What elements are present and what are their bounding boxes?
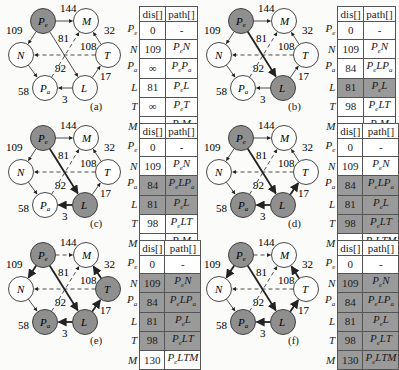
edge-weight: 144	[258, 236, 275, 248]
dis-cell: 0	[140, 22, 166, 40]
edge-weight: 17	[298, 304, 310, 316]
table-row: T∞PeT	[125, 97, 198, 116]
edge-weight: 32	[302, 24, 313, 36]
edge-weight: 144	[258, 119, 275, 131]
node-n: N	[207, 43, 232, 68]
table-row: Pe0-	[125, 22, 198, 40]
svg-text:T: T	[104, 166, 111, 178]
dis-cell: 98	[140, 214, 166, 233]
edge-weight: 17	[298, 187, 310, 199]
path-cell: PeLT	[363, 97, 395, 116]
row-label: N	[323, 274, 338, 293]
dis-cell: 109	[338, 274, 363, 293]
path-cell: PeLTM	[363, 350, 399, 369]
path-cell: PeL	[363, 78, 395, 97]
edge-pe-n	[28, 148, 36, 160]
table-row: N109PeN	[125, 40, 198, 59]
node-pe: Pe	[31, 126, 56, 151]
dis-cell: 81	[338, 312, 363, 331]
col-header-dis: dis[]	[338, 124, 363, 139]
row-label: M	[125, 350, 140, 369]
edge-weight: 32	[302, 258, 313, 270]
edge-weight: 144	[60, 119, 77, 131]
edge-weight: 58	[216, 85, 228, 97]
svg-text:N: N	[214, 49, 223, 61]
edge-weight: 92	[55, 296, 66, 308]
edge-n-pa	[28, 182, 37, 194]
svg-text:M: M	[81, 132, 92, 144]
edge-pe-n	[28, 31, 36, 43]
dis-cell: 109	[140, 157, 166, 176]
table-row: Pe0-	[125, 256, 201, 274]
table-row: Pa84PeLPa	[323, 293, 399, 312]
row-label: N	[323, 157, 338, 176]
dis-cell: ∞	[140, 97, 166, 116]
dis-cell: 81	[338, 195, 363, 214]
edge-weight: 58	[18, 85, 30, 97]
path-cell: PeL	[165, 195, 197, 214]
path-cell: PeLPa	[165, 176, 197, 195]
graph: 14410981321089258317PeMNTPaL	[198, 117, 323, 234]
table-row: L81PeL	[323, 312, 399, 331]
dis-cell: 84	[338, 59, 364, 78]
panel-c: 14410981321089258317PeMNTPaLdis[]path[]P…	[0, 117, 198, 234]
svg-text:M: M	[279, 15, 290, 27]
row-label: T	[125, 331, 140, 350]
col-header-path: path[]	[363, 241, 399, 256]
dis-cell: 130	[140, 350, 165, 369]
row-label: L	[125, 195, 140, 214]
svg-text:T: T	[104, 49, 111, 61]
row-label: T	[125, 97, 140, 116]
edge-weight: 108	[278, 40, 295, 52]
dis-cell: 109	[140, 274, 165, 293]
node-n: N	[207, 277, 232, 302]
path-cell: -	[363, 22, 395, 40]
path-cell: PeLPa	[165, 293, 201, 312]
svg-text:L: L	[80, 82, 87, 94]
edge-weight: 108	[278, 157, 295, 169]
edge-weight: 108	[80, 40, 97, 52]
node-m: M	[272, 126, 297, 151]
edge-weight: 3	[260, 93, 266, 105]
edge-weight: 81	[256, 149, 267, 161]
edge-pe-n	[226, 148, 234, 160]
panel-caption: (d)	[288, 217, 301, 229]
table-row: Pe0-	[323, 139, 399, 157]
svg-text:N: N	[214, 283, 223, 295]
col-header-dis: dis[]	[140, 7, 166, 22]
edge-weight: 109	[6, 24, 23, 36]
table-row: T98PeLT	[323, 97, 396, 116]
dis-cell: 0	[338, 139, 363, 157]
edge-weight: 144	[60, 236, 77, 248]
row-label: Pa	[125, 176, 140, 195]
edge-weight: 17	[100, 70, 112, 82]
node-m: M	[74, 9, 99, 34]
row-label: L	[323, 195, 338, 214]
edge-weight: 17	[298, 70, 310, 82]
table-row: Pe0-	[323, 22, 396, 40]
node-t: T	[294, 43, 319, 68]
panel-d: 14410981321089258317PeMNTPaLdis[]path[]P…	[198, 117, 396, 234]
dis-cell: 81	[140, 78, 166, 97]
row-label: Pe	[323, 256, 338, 274]
edge-n-pa	[28, 299, 37, 311]
edge-weight: 109	[204, 258, 221, 270]
path-cell: -	[363, 256, 399, 274]
dis-cell: 98	[338, 331, 363, 350]
dis-cell: 0	[338, 256, 363, 274]
path-cell: PeL	[363, 195, 399, 214]
path-cell: PeLT	[363, 214, 399, 233]
svg-text:T: T	[302, 283, 309, 295]
edge-weight: 58	[216, 319, 228, 331]
edge-weight: 32	[302, 141, 313, 153]
edge-weight: 3	[62, 327, 68, 339]
row-label: M	[323, 350, 338, 369]
table-row: N109PeN	[323, 157, 399, 176]
edge-weight: 109	[6, 141, 23, 153]
node-l: L	[271, 310, 296, 335]
path-cell: PeLT	[165, 214, 197, 233]
dis-cell: 109	[338, 40, 364, 59]
dis-cell: 109	[338, 157, 363, 176]
col-header-path: path[]	[165, 241, 201, 256]
path-cell: PeLT	[165, 331, 201, 350]
